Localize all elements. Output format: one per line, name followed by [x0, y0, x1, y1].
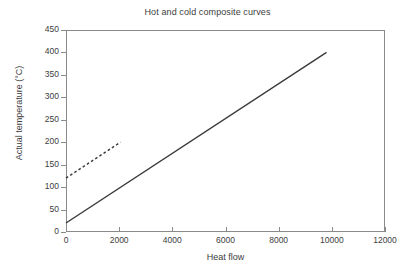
y-tick-mark: [61, 30, 66, 31]
series-line-1: [66, 142, 120, 178]
x-tick-label: 2000: [94, 235, 144, 245]
y-tick-label: 400: [19, 46, 59, 56]
x-tick-label: 10000: [307, 235, 357, 245]
x-axis-label: Heat flow: [66, 252, 385, 262]
y-tick-label: 200: [19, 136, 59, 146]
chart-figure: Hot and cold composite curves Actual tem…: [0, 0, 415, 274]
y-tick-label: 450: [19, 24, 59, 34]
chart-title: Hot and cold composite curves: [0, 7, 415, 17]
x-tick-label: 4000: [147, 235, 197, 245]
y-tick-mark: [61, 210, 66, 211]
x-tick-label: 0: [41, 235, 91, 245]
y-tick-mark: [61, 187, 66, 188]
x-tick-mark: [279, 227, 280, 232]
y-tick-mark: [61, 52, 66, 53]
y-tick-label: 250: [19, 114, 59, 124]
y-tick-mark: [61, 75, 66, 76]
y-tick-label: 100: [19, 181, 59, 191]
y-tick-label: 50: [19, 204, 59, 214]
y-tick-mark: [61, 165, 66, 166]
y-tick-label: 150: [19, 159, 59, 169]
x-tick-mark: [119, 227, 120, 232]
y-tick-mark: [61, 232, 66, 233]
x-tick-mark: [385, 227, 386, 232]
x-tick-mark: [226, 227, 227, 232]
y-tick-label: 300: [19, 91, 59, 101]
x-tick-mark: [172, 227, 173, 232]
x-tick-mark: [332, 227, 333, 232]
y-tick-mark: [61, 120, 66, 121]
plot-lines: [66, 30, 385, 232]
x-tick-label: 8000: [254, 235, 304, 245]
x-tick-label: 6000: [201, 235, 251, 245]
y-tick-mark: [61, 97, 66, 98]
y-tick-mark: [61, 142, 66, 143]
x-tick-mark: [66, 227, 67, 232]
series-line-0: [66, 52, 327, 223]
x-tick-label: 12000: [360, 235, 410, 245]
y-tick-label: 350: [19, 69, 59, 79]
